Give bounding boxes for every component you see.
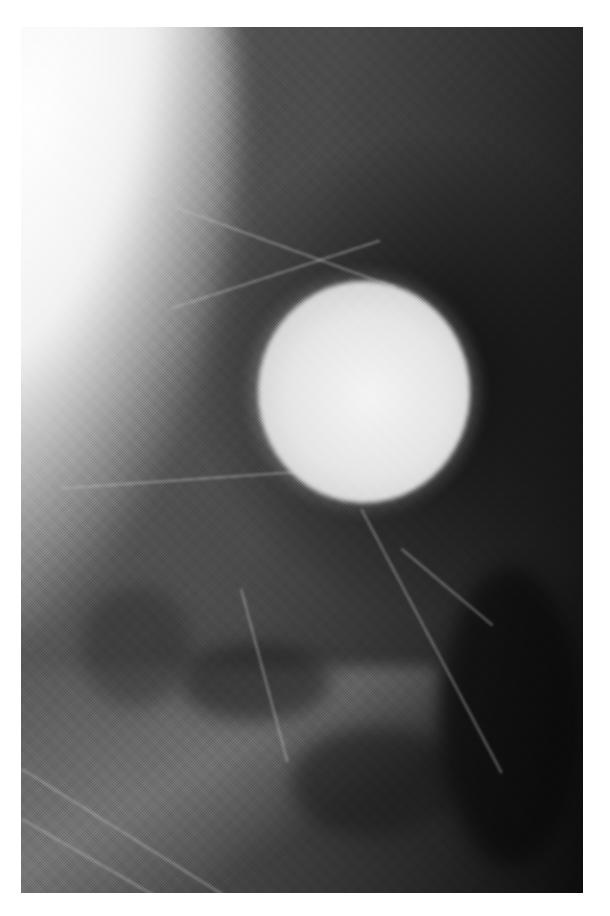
radiograph-image xyxy=(21,27,583,893)
film-grain xyxy=(21,27,583,893)
